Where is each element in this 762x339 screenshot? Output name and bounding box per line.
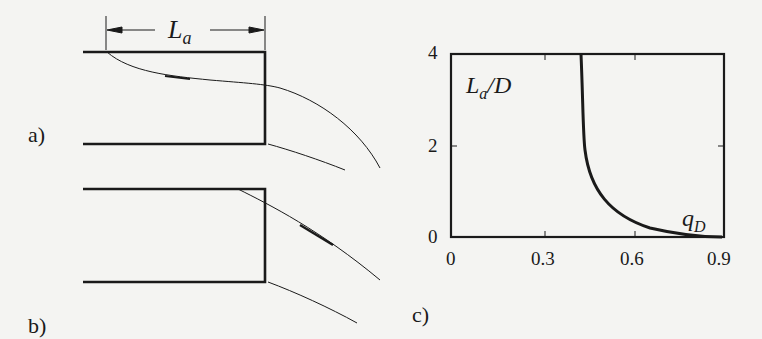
x-tick-0.3: 0.3 [531,248,555,270]
pipe-b [83,170,380,323]
y-tick-2: 2 [428,135,438,157]
panel-label-b: b) [28,313,46,339]
y-tick-4: 4 [428,42,438,64]
x-axis-label: qD [682,205,706,236]
y-axis-label: La/D [466,72,511,103]
x-tick-0: 0 [446,248,456,270]
panel-label-c: c) [412,302,429,328]
figure-canvas [0,0,762,339]
y-tick-0: 0 [428,226,438,248]
pipe-a [83,52,380,170]
panel-label-a: a) [28,122,45,148]
x-tick-0.6: 0.6 [620,248,644,270]
dimension-label: La [168,15,191,49]
x-tick-0.9: 0.9 [707,248,731,270]
